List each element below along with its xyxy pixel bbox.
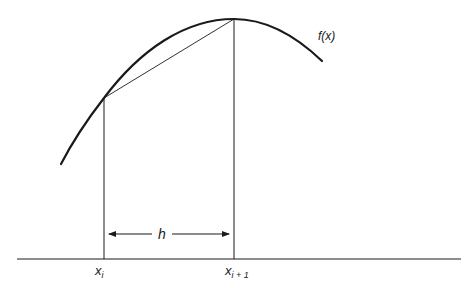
- xi-subscript: i: [102, 270, 105, 280]
- xi-plus-1-subscript: i + 1: [232, 270, 249, 280]
- function-curve: [61, 19, 322, 164]
- function-label: f(x): [318, 29, 335, 43]
- interval-label-h: h: [158, 226, 166, 242]
- secant-chord: [104, 19, 234, 98]
- trapezoid-rule-diagram: h f(x) xi xi + 1: [0, 0, 467, 288]
- xi-label: xi: [94, 263, 105, 280]
- xi-plus-1-label: xi + 1: [224, 263, 249, 280]
